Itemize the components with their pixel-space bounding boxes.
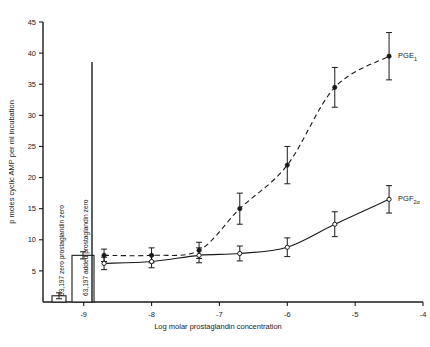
x-tick-label: -5 [352, 310, 359, 319]
data-point-PGF2alpha [285, 245, 289, 249]
series-curve-PGF2alpha [104, 199, 389, 263]
series-label-PGE1: PGE1 [398, 51, 417, 62]
y-tick-label: 15 [28, 204, 36, 213]
data-point-PGF2alpha [149, 259, 153, 263]
y-tick-label: 30 [28, 111, 36, 120]
y-tick-label: 45 [28, 18, 36, 27]
x-tick-label: -8 [148, 310, 155, 319]
bar-label: 63,197 added prostaglandin zero [82, 199, 90, 296]
data-point-PGF2alpha [197, 253, 201, 257]
x-tick-label: -4 [420, 310, 427, 319]
y-tick-label: 40 [28, 49, 36, 58]
y-tick-label: 25 [28, 142, 36, 151]
x-axis-title: Log molar prostaglandin concentration [154, 322, 282, 331]
data-point-PGE1 [285, 163, 289, 167]
figure-container: 51015202530354045p moles cyclic AMP per … [0, 0, 430, 347]
chart-canvas: 51015202530354045p moles cyclic AMP per … [0, 0, 430, 347]
y-tick-label: 35 [28, 80, 36, 89]
data-point-PGE1 [387, 54, 391, 58]
data-point-PGF2alpha [102, 261, 106, 265]
data-point-PGF2alpha [387, 197, 391, 201]
series-label-PGF2alpha: PGF2α [398, 194, 421, 205]
data-point-PGE1 [333, 85, 337, 89]
data-point-PGF2alpha [238, 251, 242, 255]
y-tick-label: 20 [28, 173, 36, 182]
y-axis-title: p moles cyclic AMP per ml incubation [7, 100, 16, 224]
data-point-PGF2alpha [333, 222, 337, 226]
data-point-PGE1 [238, 207, 242, 211]
x-tick-label: -7 [216, 310, 223, 319]
x-tick-label: -9 [80, 310, 87, 319]
series-curve-PGE1 [104, 56, 389, 255]
bar-label: 63,197 zero prostaglandin zero [58, 205, 66, 296]
y-tick-label: 5 [32, 267, 36, 276]
x-tick-label: -6 [284, 310, 291, 319]
y-tick-label: 10 [28, 235, 36, 244]
